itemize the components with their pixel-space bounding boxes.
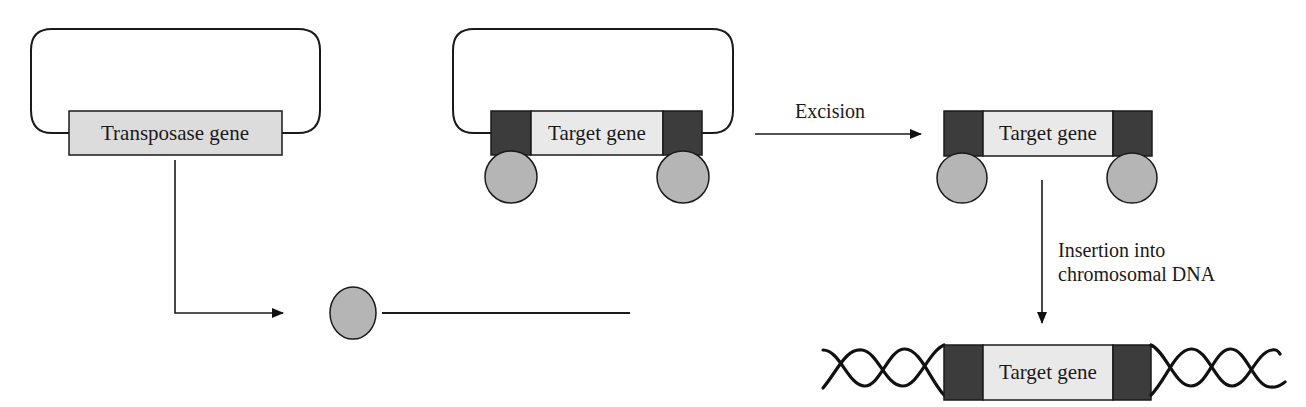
- dna-helix-right: [1151, 345, 1285, 395]
- bound-transposase-right: [657, 151, 709, 203]
- target-gene-label: Target gene: [548, 121, 646, 145]
- expression-arrow: [175, 160, 283, 313]
- right-flank: [1113, 111, 1152, 156]
- left-flank: [944, 345, 983, 400]
- excised-transposon: Target gene: [937, 111, 1157, 203]
- right-flank: [663, 111, 702, 155]
- left-flank: [491, 111, 531, 155]
- right-flank: [1113, 345, 1151, 400]
- transposase-plasmid: Transposase gene: [31, 29, 320, 155]
- insertion-label: Insertion into chromosomal DNA: [1058, 239, 1216, 285]
- target-gene-label: Target gene: [999, 121, 1097, 145]
- excision-label: Excision: [795, 100, 865, 122]
- bound-transposase-left: [485, 151, 537, 203]
- dna-helix-left: [823, 345, 944, 395]
- excision-arrow: Excision: [755, 100, 921, 134]
- integrated-chromosome: Target gene: [823, 345, 1285, 400]
- target-plasmid: Target gene: [453, 29, 733, 203]
- bound-transposase-right: [1107, 153, 1157, 203]
- target-gene-label: Target gene: [999, 360, 1097, 384]
- bound-transposase-left: [937, 153, 987, 203]
- left-flank: [944, 111, 983, 156]
- transposon-diagram: Transposase gene Target gene Excision Ta…: [0, 0, 1306, 407]
- transposase-gene-label: Transposase gene: [101, 121, 249, 145]
- transposase-protein: [330, 287, 376, 339]
